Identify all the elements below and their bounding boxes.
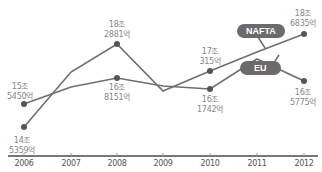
nafta-2008-label: 18조2881억 xyxy=(104,20,130,40)
x-tick-2009: 2009 xyxy=(153,159,172,168)
eu-badge-pointer xyxy=(275,55,279,61)
eu-2008-label: 16조8151억 xyxy=(104,83,130,103)
x-tick-2011: 2011 xyxy=(247,159,266,168)
x-tick-2006: 2006 xyxy=(14,159,33,168)
eu-2010-label: 16조1742억 xyxy=(197,95,223,115)
nafta-2006-label: 14조5359억 xyxy=(9,136,35,156)
line-chart: 14조5359억 15조5450억 18조2881억 16조8151억 17조3… xyxy=(0,0,322,172)
nafta-legend-badge: NAFTA xyxy=(237,24,285,38)
x-tick-2007: 2007 xyxy=(61,159,80,168)
nafta-2010-label: 17조315억 xyxy=(199,47,220,67)
nafta-line xyxy=(24,34,304,127)
eu-2006-label: 15조5450억 xyxy=(7,82,33,102)
x-tick-2008: 2008 xyxy=(107,159,126,168)
nafta-2012-label: 18조6835억 xyxy=(290,9,316,29)
eu-legend-badge: EU xyxy=(240,61,281,75)
x-tick-2012: 2012 xyxy=(294,159,313,168)
eu-2012-label: 16조5775억 xyxy=(290,88,316,108)
x-tick-2010: 2010 xyxy=(200,159,219,168)
nafta-badge-pointer xyxy=(258,37,265,48)
